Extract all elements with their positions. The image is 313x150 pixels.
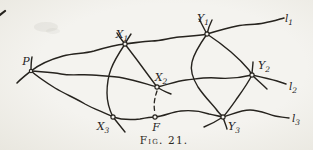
print-smudge: [46, 28, 60, 34]
node-y2: [250, 73, 254, 77]
line-label-l1: l1: [285, 12, 293, 27]
geometry-diagram: P X1 Y1 X2 Y2 X3 Y3 F l1 l2 l3 Fig. 21.: [0, 0, 313, 150]
node-p: [29, 69, 32, 72]
point-label-y2: Y2: [258, 59, 270, 74]
curve-y2-y3: [204, 62, 253, 127]
point-label-y1: Y1: [197, 12, 209, 27]
node-y3: [221, 115, 225, 119]
node-f: [153, 115, 157, 119]
point-label-f: F: [151, 121, 160, 134]
node-x3: [111, 115, 115, 119]
page-edge-mark: [0, 11, 5, 15]
line-label-l3: l3: [292, 112, 300, 127]
dashed-line-x2-f: [154, 91, 157, 113]
point-label-x1: X1: [115, 28, 129, 43]
point-label-y3: Y3: [228, 120, 240, 135]
point-label-x2: X2: [154, 71, 168, 86]
node-x2: [155, 85, 159, 89]
node-x1: [123, 42, 127, 46]
figure-caption: Fig. 21.: [140, 134, 189, 146]
curve-y1-y3: [191, 20, 227, 129]
line-label-l2: l2: [289, 80, 297, 95]
node-y1: [205, 32, 209, 36]
figure-21-scan: P X1 Y1 X2 Y2 X3 Y3 F l1 l2 l3 Fig. 21.: [0, 0, 313, 150]
point-label-x3: X3: [96, 120, 110, 135]
point-label-p: P: [21, 55, 30, 68]
